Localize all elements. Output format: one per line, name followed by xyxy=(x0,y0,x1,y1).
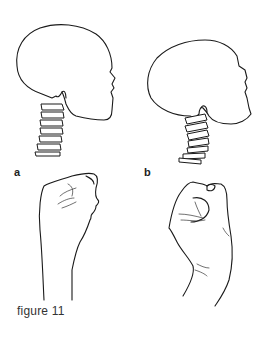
skull-profile-icon xyxy=(0,0,135,160)
hand-b-illustration xyxy=(135,170,270,310)
skull-b-illustration xyxy=(135,0,270,165)
hand-a-illustration xyxy=(0,170,135,305)
skull-a-illustration xyxy=(0,0,135,160)
skull-profile-icon xyxy=(135,0,270,165)
hand-pinch-icon xyxy=(0,170,135,305)
hand-fist-icon xyxy=(135,170,270,310)
figure-caption: figure 11 xyxy=(17,304,65,318)
